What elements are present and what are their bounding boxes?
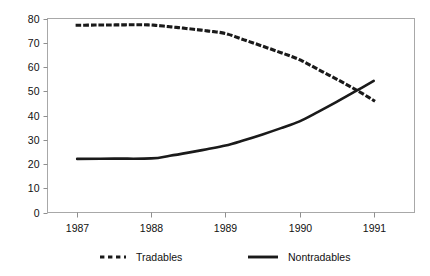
chart-container: 01020304050607080 19871988198919901991 T…: [0, 0, 430, 276]
y-tick-label: 40: [28, 110, 40, 122]
y-axis-tick-labels: 01020304050607080: [28, 13, 40, 219]
x-tick-label: 1988: [140, 222, 164, 234]
y-tick-label: 0: [34, 207, 40, 219]
y-tick-label: 50: [28, 85, 40, 97]
y-tick-label: 10: [28, 182, 40, 194]
y-tick-label: 70: [28, 37, 40, 49]
x-tick-label: 1989: [214, 222, 238, 234]
y-tick-label: 30: [28, 134, 40, 146]
y-tick-label: 20: [28, 158, 40, 170]
x-tick-label: 1990: [289, 222, 313, 234]
line-chart: 01020304050607080 19871988198919901991 T…: [0, 0, 430, 276]
y-tick-label: 80: [28, 13, 40, 25]
legend-label-nontradables: Nontradables: [288, 251, 350, 263]
x-tick-label: 1987: [66, 222, 90, 234]
legend-label-tradables: Tradables: [136, 251, 182, 263]
y-tick-label: 60: [28, 61, 40, 73]
x-tick-label: 1991: [363, 222, 387, 234]
chart-background: [0, 0, 430, 276]
